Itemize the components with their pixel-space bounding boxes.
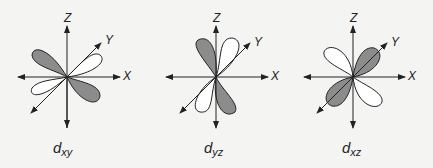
lobe-shaded [32,50,67,77]
z-axis-label: Z [213,11,220,25]
lobe-unshaded [353,77,382,106]
z-axis-label: Z [64,11,71,25]
orbital-label-dxy: dxy [53,139,72,158]
y-axis-label: Y [105,33,113,47]
panel-dxz [304,26,405,128]
z-axis-label: Z [350,11,357,25]
x-axis-label: X [408,69,416,83]
x-axis-label: X [271,69,279,83]
y-axis-label: Y [391,35,399,49]
lobe-shaded [196,39,216,77]
orbital-label-dyz: dyz [204,139,223,158]
orbital-subscript: yz [212,146,223,158]
lobe-shaded [67,77,100,102]
x-axis-label: X [123,69,131,83]
lobe-unshaded [31,77,67,95]
lobe-shaded [215,77,236,114]
orbital-label-dxz: dxz [342,139,361,158]
lobe-unshaded [67,54,102,77]
orbital-subscript: xz [350,146,361,158]
lobe-unshaded [324,48,353,77]
orbital-diagram: Z Y X dxy Z Y X dyz Z Y X dxz [0,0,433,168]
orbital-subscript: xy [61,146,72,158]
y-axis-label: Y [254,35,262,49]
panel-dyz [166,26,268,128]
